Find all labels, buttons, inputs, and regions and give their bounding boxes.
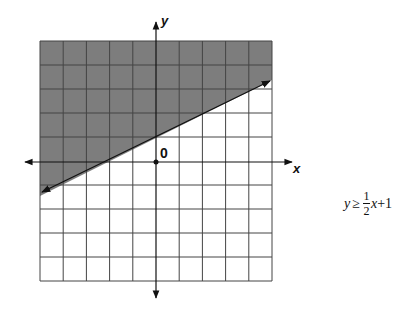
inequality-label: y ≥ 1 2 x +1 — [344, 190, 392, 217]
origin-point — [154, 160, 159, 165]
inequality-constant: +1 — [377, 196, 392, 212]
inequality-lhs: y — [344, 196, 350, 212]
fraction-numerator: 1 — [363, 190, 369, 202]
origin-label: 0 — [160, 145, 168, 161]
coordinate-plane — [0, 0, 419, 314]
fraction-denominator: 2 — [363, 205, 369, 217]
y-axis-label: y — [161, 13, 168, 28]
x-axis-label: x — [293, 161, 300, 176]
coefficient-fraction: 1 2 — [363, 190, 370, 217]
inequality-relation: ≥ — [352, 196, 360, 212]
